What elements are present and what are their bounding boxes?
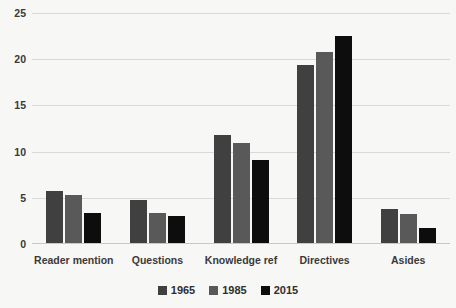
legend-swatch-icon bbox=[209, 286, 218, 295]
bar bbox=[297, 65, 314, 244]
bar-group bbox=[214, 13, 269, 244]
y-tick-label: 0 bbox=[0, 239, 26, 250]
bar bbox=[130, 200, 147, 244]
x-tick-label: Directives bbox=[283, 255, 367, 266]
legend-label: 1985 bbox=[222, 285, 246, 296]
bar bbox=[84, 213, 101, 244]
x-tick-label: Knowledge ref bbox=[199, 255, 283, 266]
legend-label: 2015 bbox=[274, 285, 298, 296]
legend-item[interactable]: 1965 bbox=[158, 285, 195, 296]
y-tick-label: 10 bbox=[0, 147, 26, 158]
bar-group bbox=[46, 13, 101, 244]
legend-item[interactable]: 1985 bbox=[209, 285, 246, 296]
x-tick-label: Questions bbox=[116, 255, 200, 266]
bar bbox=[381, 209, 398, 244]
bar bbox=[46, 191, 63, 244]
x-tick-label: Reader mention bbox=[32, 255, 116, 266]
x-tick-label: Asides bbox=[366, 255, 450, 266]
y-tick-label: 20 bbox=[0, 54, 26, 65]
bar bbox=[252, 160, 269, 244]
bar bbox=[168, 216, 185, 244]
legend: 196519852015 bbox=[0, 285, 456, 296]
bar-group bbox=[381, 13, 436, 244]
y-tick-label: 15 bbox=[0, 100, 26, 111]
bar bbox=[316, 52, 333, 244]
bar-group bbox=[297, 13, 352, 244]
bar bbox=[149, 213, 166, 244]
bar-chart: 0510152025 Reader mentionQuestionsKnowle… bbox=[0, 0, 456, 308]
bar bbox=[335, 36, 352, 244]
bar bbox=[400, 214, 417, 244]
legend-swatch-icon bbox=[261, 286, 270, 295]
y-tick-label: 5 bbox=[0, 193, 26, 204]
y-tick-label: 25 bbox=[0, 8, 26, 19]
bar bbox=[233, 143, 250, 244]
plot-area bbox=[32, 13, 450, 244]
legend-item[interactable]: 2015 bbox=[261, 285, 298, 296]
legend-swatch-icon bbox=[158, 286, 167, 295]
bar bbox=[419, 228, 436, 244]
x-axis-line bbox=[32, 243, 450, 244]
bar bbox=[214, 135, 231, 244]
legend-label: 1965 bbox=[171, 285, 195, 296]
bar-group bbox=[130, 13, 185, 244]
bar bbox=[65, 195, 82, 244]
